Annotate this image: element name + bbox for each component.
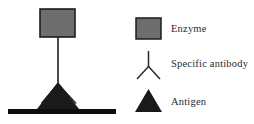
legend-label-enzyme: Enzyme	[171, 24, 207, 35]
legend-swatch-enzyme-rectangle-icon	[136, 18, 161, 39]
immunoassay-figure: Enzyme Specific antibody Antigen	[0, 0, 254, 124]
solid-phase-baseline-icon	[8, 109, 116, 114]
enzyme-rectangle-icon	[40, 9, 75, 37]
legend-label-antigen: Antigen	[171, 97, 206, 108]
legend-swatch-antibody-right-arm-icon	[149, 67, 161, 80]
legend-label-antibody: Specific antibody	[171, 59, 248, 70]
legend-swatch-antigen-triangle-icon	[135, 89, 162, 112]
antigen-triangle-icon	[37, 82, 79, 109]
legend-swatches	[135, 18, 162, 112]
sandwich-assay-diagram	[8, 9, 116, 114]
legend-swatch-antibody-left-arm-icon	[137, 67, 149, 80]
